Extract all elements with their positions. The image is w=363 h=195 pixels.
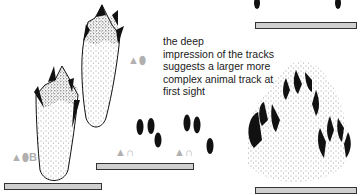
triangle-icon: ▲ bbox=[115, 146, 126, 158]
scale-bar-middle bbox=[96, 163, 194, 170]
caption-line: impression of the tracks bbox=[163, 48, 273, 61]
top-right-partial-tracks bbox=[254, 0, 341, 9]
triangle-icon: ▲ bbox=[174, 146, 185, 158]
scale-bar-left bbox=[4, 183, 102, 190]
scale-bar-top-right bbox=[255, 22, 357, 29]
arch-icon: ∩ bbox=[185, 146, 193, 158]
caption-text: the deep impression of the tracks sugges… bbox=[163, 35, 273, 98]
upper-footprint bbox=[82, 4, 124, 127]
caption-line: first sight bbox=[163, 85, 273, 98]
oval-icon: ⬮ bbox=[139, 54, 146, 66]
small-tracks-left bbox=[137, 118, 162, 148]
scale-bar-bottom-right bbox=[255, 187, 357, 194]
arch-icon: ∩ bbox=[126, 146, 134, 158]
symbol-letter: B bbox=[29, 151, 37, 163]
symbol-label-small-right: ▲∩ bbox=[174, 146, 193, 158]
caption-line: the deep bbox=[163, 35, 273, 48]
caption-line: complex animal track at bbox=[163, 73, 273, 86]
symbol-label-small-left: ▲∩ bbox=[115, 146, 134, 158]
caption-line: suggests a larger more bbox=[163, 60, 273, 73]
oval-icon: ⬮ bbox=[22, 151, 29, 163]
symbol-label-upper: ▲⬮ bbox=[128, 54, 146, 67]
lower-footprint bbox=[34, 66, 80, 181]
triangle-icon: ▲ bbox=[128, 54, 139, 66]
symbol-label-lower: ▲⬮B bbox=[11, 151, 37, 164]
triangle-icon: ▲ bbox=[11, 151, 22, 163]
